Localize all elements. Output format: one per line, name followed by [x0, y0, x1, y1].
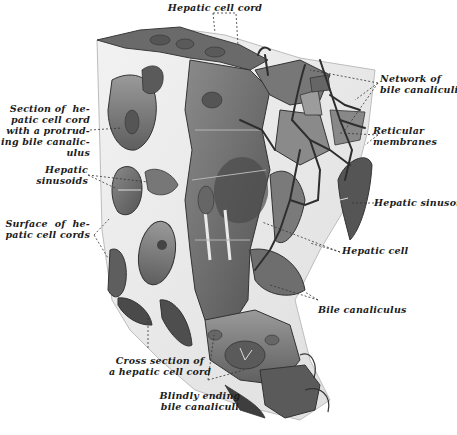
label-hepatic-sinusoid: Hepatic sinusoid — [374, 197, 457, 208]
label-bile-canaliculus: Bile canaliculus — [318, 304, 413, 315]
label-cross-section-hepatic-cell-cord: Cross section of a hepatic cell cord — [100, 355, 220, 377]
label-reticular-membranes: Reticular membranes — [373, 125, 457, 147]
label-blindly-ending-bile-canaliculi: Blindly ending bile canaliculi — [150, 390, 250, 412]
label-surface-hepatic-cell-cords: Surface of he- patic cell cords — [0, 218, 90, 240]
label-network-bile-canaliculi: Network of bile canaliculi — [380, 73, 457, 95]
liver-histology-diagram: Hepatic cell cord Network of bile canali… — [0, 0, 457, 435]
label-section-hepatic-cell-cord: Section of he- patic cell cord with a pr… — [0, 103, 90, 158]
label-hepatic-cell-cord: Hepatic cell cord — [150, 2, 280, 13]
label-hepatic-sinusoids: Hepatic sinusoids — [0, 164, 88, 186]
label-hepatic-cell: Hepatic cell — [342, 245, 422, 256]
